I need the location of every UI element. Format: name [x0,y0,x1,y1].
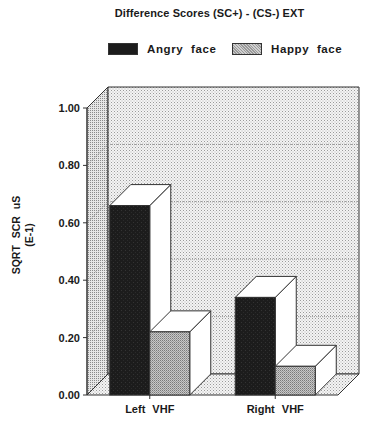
y-tick-label: 0.00 [59,389,80,401]
y-tick-label: 0.20 [59,332,80,344]
bar-happy-face-right-vhf-front [275,366,315,395]
side-wall [87,87,108,395]
bar-angry-face-right-vhf-front [235,297,275,395]
y-tick-label: 0.40 [59,274,80,286]
bar-angry-face-left-vhf-front [110,206,150,395]
x-tick-label: Left VHF [125,403,175,415]
y-tick-label: 0.60 [59,217,80,229]
y-tick-label: 0.80 [59,159,80,171]
chart-plot: 0.000.200.400.600.801.00Left VHFRight VH… [0,0,369,426]
x-tick-label: Right VHF [247,403,304,415]
bar-happy-face-left-vhf-front [150,332,190,395]
y-tick-label: 1.00 [59,102,80,114]
bar-happy-face-left-vhf [150,311,211,395]
